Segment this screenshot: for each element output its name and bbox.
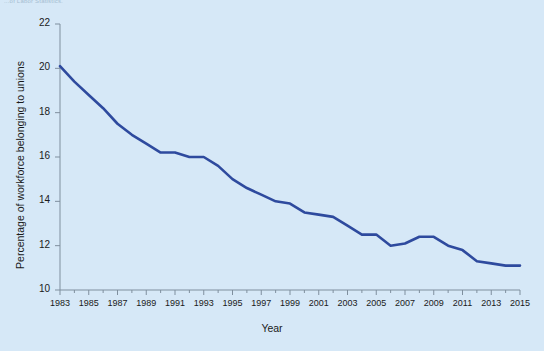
- axis-ticks: [55, 24, 520, 295]
- union-membership-series: [60, 66, 520, 266]
- axis-lines: [60, 24, 520, 290]
- plot-area: [0, 0, 544, 351]
- union-membership-line-chart: ...of Labor Statistics. Percentage of wo…: [0, 0, 544, 351]
